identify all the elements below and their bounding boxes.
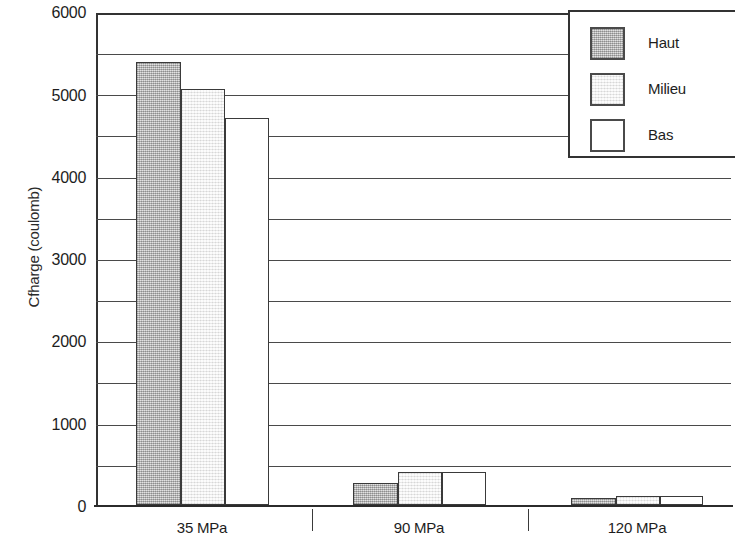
y-tick-label: 4000: [32, 170, 86, 186]
y-tick-label: 2000: [32, 334, 86, 350]
x-axis-baseline: [94, 505, 733, 507]
legend-label-haut: Haut: [648, 32, 679, 54]
x-axis-tick: [312, 509, 313, 531]
legend-label-milieu: Milieu: [648, 78, 686, 100]
legend-item-milieu: Milieu: [590, 70, 735, 108]
x-tick-label-90mpa: 90 MPa: [349, 519, 489, 537]
bar-chart: Cfharge (coulomb) 6000 5000 4000 3000 20…: [0, 0, 735, 546]
bar-bas-35mpa: [225, 118, 269, 505]
y-tick-label: 6000: [32, 5, 86, 21]
legend: Haut Milieu Bas: [568, 10, 735, 158]
bar-haut-90mpa: [353, 483, 398, 505]
y-tick-label: 1000: [32, 417, 86, 433]
y-tick-label: 3000: [32, 252, 86, 268]
legend-label-bas: Bas: [648, 124, 673, 146]
legend-swatch-haut: [590, 27, 625, 60]
x-tick-label-35mpa: 35 MPa: [132, 519, 272, 537]
x-axis-tick: [528, 509, 529, 531]
y-tick-label: 5000: [32, 88, 86, 104]
legend-item-bas: Bas: [590, 116, 735, 154]
legend-item-haut: Haut: [590, 24, 735, 62]
legend-swatch-milieu: [590, 73, 625, 106]
bar-bas-90mpa: [442, 472, 486, 505]
y-axis-tick-labels: 6000 5000 4000 3000 2000 1000 0: [24, 0, 86, 546]
bar-milieu-120mpa: [616, 496, 660, 505]
legend-swatch-bas: [590, 119, 625, 152]
y-tick-label: 0: [32, 499, 86, 515]
bar-haut-35mpa: [136, 62, 181, 505]
bar-bas-120mpa: [660, 496, 703, 505]
x-tick-label-120mpa: 120 MPa: [567, 519, 707, 537]
bar-milieu-90mpa: [398, 472, 442, 505]
bar-haut-120mpa: [571, 498, 616, 505]
bar-milieu-35mpa: [181, 89, 225, 505]
